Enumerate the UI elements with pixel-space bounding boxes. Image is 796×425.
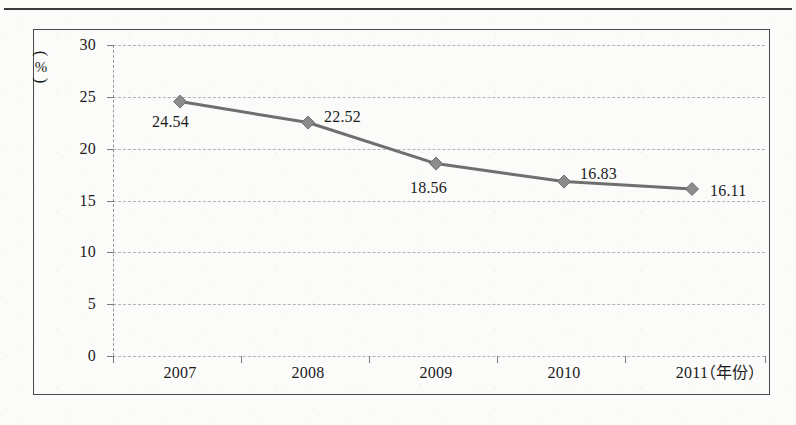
gridline (113, 356, 765, 357)
gridline (113, 149, 765, 150)
data-point-value-label: 16.11 (710, 183, 746, 199)
x-axis-tick-label: 2008 (291, 364, 324, 382)
y-axis-tick (107, 45, 114, 46)
x-axis-tick-label: 2007 (163, 364, 196, 382)
y-axis-tick-label: 5 (88, 296, 96, 312)
y-axis-tick-label: 15 (79, 193, 96, 209)
chart-figure-frame (33, 29, 770, 395)
data-point-value-label: 18.56 (410, 180, 447, 196)
data-point-value-label: 22.52 (324, 109, 361, 125)
data-point-value-label: 16.83 (580, 166, 617, 182)
y-axis-unit-label: ( % ) (30, 48, 52, 94)
x-axis-tick (625, 356, 626, 363)
x-axis-unit-label: （年份） (700, 364, 764, 382)
x-axis-tick-label: 2009 (419, 364, 452, 382)
gridline (113, 201, 765, 202)
x-axis-tick (497, 356, 498, 363)
gridline (113, 45, 765, 46)
x-axis-tick-end (765, 356, 766, 363)
x-axis-tick (241, 356, 242, 363)
scanned-page: ( % ) 051015202530 20072008200920102011 … (0, 0, 796, 425)
y-axis-unit-paren: ( (36, 43, 47, 65)
y-axis-tick (107, 149, 114, 150)
x-axis-tick (113, 356, 114, 363)
y-axis-tick-label: 30 (79, 37, 96, 53)
y-axis-tick (107, 304, 114, 305)
y-axis-unit-paren-close: ) (36, 70, 47, 92)
y-axis-tick-label: 20 (79, 141, 96, 157)
y-axis-tick-label: 0 (88, 348, 96, 364)
data-point-value-label: 24.54 (152, 114, 189, 130)
y-axis-tick-label: 10 (79, 244, 96, 260)
y-axis-tick-label: 25 (79, 89, 96, 105)
page-top-rule (4, 8, 792, 10)
gridline (113, 252, 765, 253)
x-axis-tick-label: 2010 (547, 364, 580, 382)
x-axis-tick (369, 356, 370, 363)
gridline (113, 304, 765, 305)
gridline (113, 97, 765, 98)
y-axis-tick (107, 97, 114, 98)
y-axis-tick (107, 252, 114, 253)
y-axis-tick (107, 201, 114, 202)
